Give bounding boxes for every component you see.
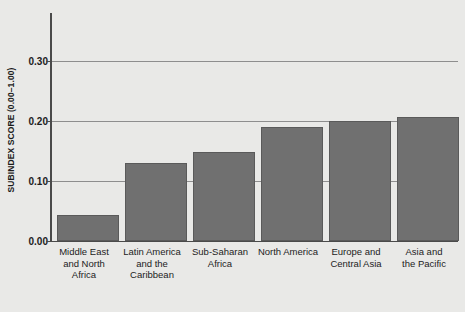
y-axis-tick-label: 0.20 xyxy=(14,115,48,126)
category-label-line: Asia and xyxy=(390,246,458,258)
category-label-line: Africa xyxy=(50,269,118,281)
category-label-line: Europe and xyxy=(322,246,390,258)
bar xyxy=(125,163,187,241)
category-label-line: and the xyxy=(118,258,186,270)
category-label-line: Central Asia xyxy=(322,258,390,270)
x-axis-category-label: North America xyxy=(254,246,322,258)
x-axis-category-label: Sub-SaharanAfrica xyxy=(186,246,254,269)
bar-chart-figure: SUBINDEX SCORE (0.00–1.00) 0.000.100.200… xyxy=(0,0,465,312)
x-axis-category-labels: Middle Eastand NorthAfricaLatin Americaa… xyxy=(50,246,458,304)
category-label-line: North America xyxy=(254,246,322,258)
bar xyxy=(57,215,119,241)
category-label-line: Africa xyxy=(186,258,254,270)
x-axis-category-label: Latin Americaand theCaribbean xyxy=(118,246,186,281)
bar xyxy=(397,117,459,240)
y-axis-tick-label: 0.30 xyxy=(14,55,48,66)
bars-group xyxy=(50,13,458,242)
category-label-line: Middle East xyxy=(50,246,118,258)
y-axis-tick-label: 0.10 xyxy=(14,175,48,186)
y-axis-tick-labels: 0.000.100.200.30 xyxy=(12,0,48,312)
category-label-line: Latin America xyxy=(118,246,186,258)
x-axis-category-label: Asia andthe Pacific xyxy=(390,246,458,269)
category-label-line: and North xyxy=(50,258,118,270)
y-axis-tick-label: 0.00 xyxy=(14,235,48,246)
category-label-line: Caribbean xyxy=(118,269,186,281)
category-label-line: Sub-Saharan xyxy=(186,246,254,258)
bar xyxy=(193,152,255,241)
category-label-line: the Pacific xyxy=(390,258,458,270)
bar xyxy=(261,127,323,241)
x-axis-category-label: Middle Eastand NorthAfrica xyxy=(50,246,118,281)
plot-area xyxy=(50,13,458,242)
bar xyxy=(329,121,391,241)
x-axis-category-label: Europe andCentral Asia xyxy=(322,246,390,269)
